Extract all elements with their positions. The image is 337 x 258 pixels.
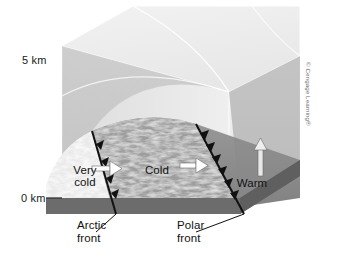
air-mass-label-very-cold: Very cold (61, 165, 109, 188)
front-label-arctic: Arctic front (77, 219, 106, 244)
copyright-notice: © Cengage Learning® (305, 62, 312, 158)
altitude-label-5km: 5 km (22, 54, 47, 66)
front-label-polar: Polar front (177, 219, 204, 244)
ground-front-band (46, 198, 240, 214)
figure-root: 5 km 0 km Very cold Cold Warm Arctic fro… (0, 0, 337, 258)
altitude-label-0km: 0 km (21, 192, 46, 204)
fronts-block-diagram (0, 0, 337, 258)
air-mass-label-cold: Cold (137, 165, 177, 177)
air-mass-label-warm: Warm (232, 178, 272, 190)
